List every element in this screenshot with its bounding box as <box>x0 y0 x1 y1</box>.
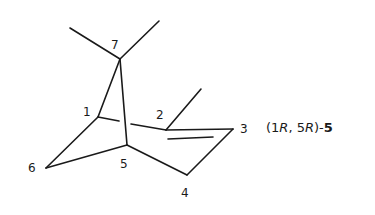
caption-stereo-r2: R <box>305 120 314 135</box>
bond-c7-c1 <box>98 59 120 117</box>
bond-c7-methyl-right <box>120 21 159 59</box>
caption-mid: , 5 <box>288 120 305 135</box>
compound-caption: (1R, 5R)-5 <box>266 120 333 135</box>
bond-c1-c2-back <box>131 124 166 130</box>
atom-label-2: 2 <box>156 108 164 122</box>
bond-c2-methyl <box>166 89 201 130</box>
atom-label-4: 4 <box>181 186 189 200</box>
bond-c2-c3-inner <box>168 137 213 139</box>
caption-prefix: (1 <box>266 120 279 135</box>
bond-c2-c3 <box>166 129 233 130</box>
bond-c3-c4 <box>187 129 233 175</box>
atom-label-6: 6 <box>28 161 36 175</box>
atom-label-3: 3 <box>240 122 248 136</box>
bond-c7-c5 <box>120 59 127 145</box>
atom-label-1: 1 <box>83 105 91 119</box>
bicyclic-structure: 1 2 3 4 5 6 7 <box>0 0 375 215</box>
atom-label-7: 7 <box>111 38 119 52</box>
caption-suffix: )- <box>314 120 324 135</box>
compound-number: 5 <box>324 120 333 135</box>
atom-label-5: 5 <box>120 157 128 171</box>
bond-c4-c5 <box>127 145 187 175</box>
bond-c1-c2-front <box>98 117 119 121</box>
